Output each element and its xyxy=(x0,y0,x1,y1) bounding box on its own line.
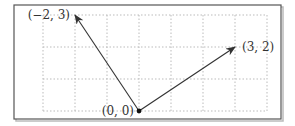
origin-label: (0, 0) xyxy=(102,104,134,118)
origin-dot xyxy=(137,109,142,114)
frame xyxy=(14,5,281,119)
vector-diagram: (0, 0) (−2, 3) (3, 2) xyxy=(0,0,295,126)
vector-label-3-2: (3, 2) xyxy=(242,40,274,54)
vector-label-neg2-3: (−2, 3) xyxy=(28,8,70,22)
